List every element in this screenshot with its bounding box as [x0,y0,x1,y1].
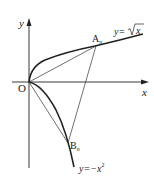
sqrt-curve-label: y= [113,26,125,37]
sqrt-curve [29,34,143,82]
y-axis-arrow-icon [27,18,32,26]
origin-label: O [18,82,26,94]
y-axis-label: y [18,17,24,29]
point-A-label: An [92,33,102,45]
x-axis-label: x [141,86,147,98]
segment-OB [29,82,68,143]
diagram-canvas: y x O An Bn y= x y=−x2 [0,0,154,188]
neg-square-curve [29,82,74,167]
sqrt-radicand: x [135,25,141,36]
segment-AB [68,46,96,143]
x-axis-arrow-icon [141,80,149,85]
point-B-label: Bn [70,140,80,152]
neg-square-curve-label: y=−x2 [78,162,104,174]
